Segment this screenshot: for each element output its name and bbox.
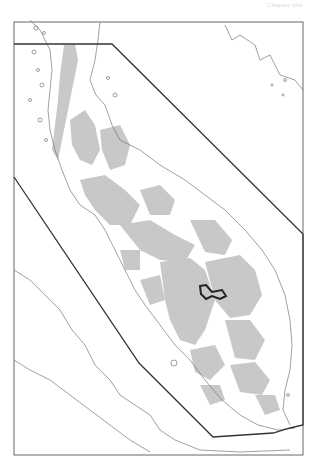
peninsula-map xyxy=(0,0,321,472)
